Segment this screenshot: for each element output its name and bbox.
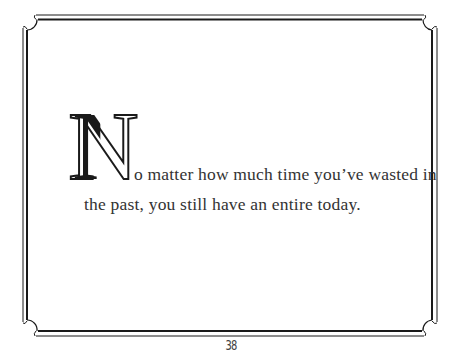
quote-line-1: o matter how much time you’ve wasted in (134, 164, 437, 185)
page-number: 38 (58, 337, 405, 353)
quote-line-2: the past, you still have an entire today… (84, 194, 361, 215)
